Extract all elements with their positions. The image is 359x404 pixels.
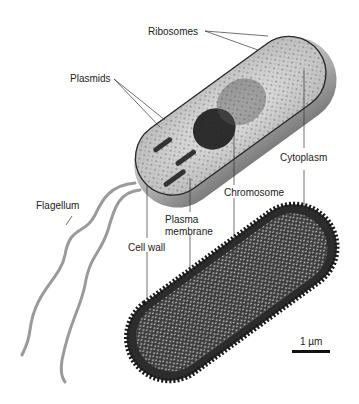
- scale-bar-label: 1 µm: [300, 336, 322, 348]
- label-cell-wall: Cell wall: [128, 242, 165, 254]
- scale-bar-line: [292, 350, 330, 353]
- flagella: [22, 183, 140, 382]
- label-plasma-membrane-line2: membrane: [165, 226, 213, 238]
- label-plasmids: Plasmids: [70, 73, 111, 85]
- label-plasma-membrane-line1: Plasma: [165, 214, 198, 226]
- micrograph-cell: [109, 187, 354, 398]
- label-chromosome: Chromosome: [224, 187, 284, 199]
- label-flagellum: Flagellum: [36, 200, 79, 212]
- bacterial-cell-diagram: Ribosomes Plasmids Cytoplasm Chromosome …: [0, 0, 359, 404]
- label-cytoplasm: Cytoplasm: [280, 152, 327, 164]
- label-ribosomes: Ribosomes: [148, 26, 198, 38]
